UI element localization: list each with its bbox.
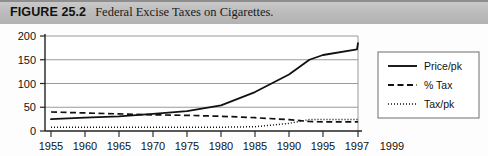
x-tick-label-1985: 1985 <box>243 140 267 152</box>
x-axis-ticks <box>51 131 358 137</box>
x-tick-label-1965: 1965 <box>107 140 131 152</box>
y-tick-label-50: 50 <box>24 101 36 113</box>
chart-legend: Price/pk % Tax Tax/pk <box>378 52 479 118</box>
x-tick-label-1955: 1955 <box>39 140 63 152</box>
x-tick-label-1975: 1975 <box>175 140 199 152</box>
y-axis-ticks <box>40 36 45 131</box>
chart-area: 200 150 100 50 0 1955 1960 <box>0 26 488 156</box>
x-tick-label-1997: 1997 <box>345 140 369 152</box>
legend-label-tax-pk: Tax/pk <box>424 98 455 110</box>
y-tick-label-150: 150 <box>18 54 36 66</box>
figure-title: Federal Excise Taxes on Cigarettes. <box>95 5 273 20</box>
figure-number: FIGURE 25.2 <box>10 5 86 19</box>
legend-label-pct-tax: % Tax <box>424 79 453 91</box>
y-tick-label-0: 0 <box>30 125 36 137</box>
x-tick-label-1960: 1960 <box>73 140 97 152</box>
figure-caption: FIGURE 25.2 Federal Excise Taxes on Ciga… <box>10 5 273 20</box>
x-tick-label-1970: 1970 <box>141 140 165 152</box>
y-tick-label-100: 100 <box>18 78 36 90</box>
x-tick-label-1990: 1990 <box>277 140 301 152</box>
y-tick-label-200: 200 <box>18 30 36 42</box>
legend-label-price-pk: Price/pk <box>424 60 463 72</box>
x-tick-label-1995: 1995 <box>311 140 335 152</box>
line-chart: 200 150 100 50 0 1955 1960 <box>0 26 488 156</box>
x-tick-label-1999: 1999 <box>380 140 404 152</box>
figure-container: FIGURE 25.2 Federal Excise Taxes on Ciga… <box>0 0 488 156</box>
x-tick-label-1980: 1980 <box>209 140 233 152</box>
figure-caption-band: FIGURE 25.2 Federal Excise Taxes on Ciga… <box>0 2 488 24</box>
